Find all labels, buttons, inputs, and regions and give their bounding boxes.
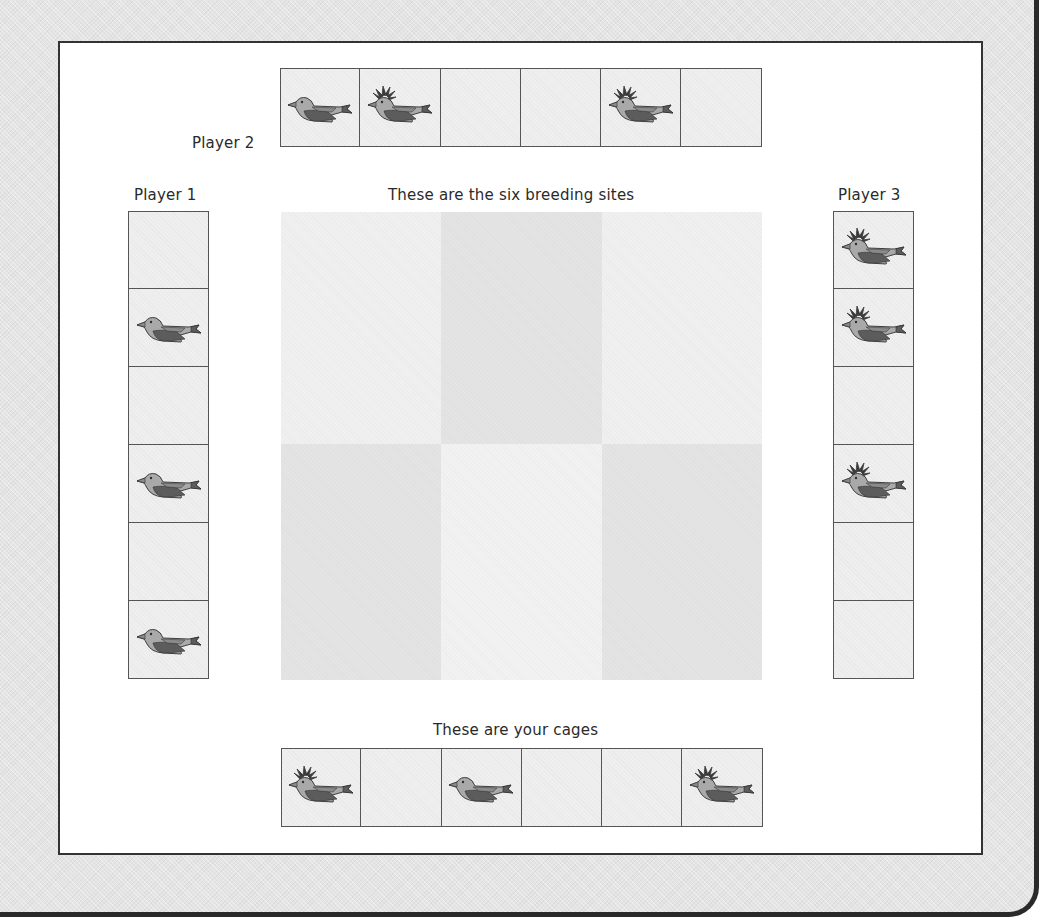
player-2-cage-6[interactable]: [681, 68, 761, 147]
breeding-site-5[interactable]: [441, 444, 601, 680]
player-1-cage-1[interactable]: [128, 211, 209, 289]
player-3-cage-3[interactable]: [833, 367, 914, 445]
breeding-sites-label: These are the six breeding sites: [388, 186, 634, 204]
bird-icon[interactable]: [133, 305, 205, 351]
player-3-label: Player 3: [838, 186, 901, 204]
crested-bird-icon[interactable]: [605, 85, 677, 131]
breeding-site-1[interactable]: [281, 212, 441, 444]
player-3-cage-2[interactable]: [833, 289, 914, 367]
your-cage-1[interactable]: [281, 748, 361, 827]
player-3-cages: [833, 211, 914, 679]
player-2-cage-3[interactable]: [441, 68, 521, 147]
bird-icon[interactable]: [133, 617, 205, 663]
crested-bird-icon[interactable]: [838, 461, 910, 507]
breeding-site-3[interactable]: [602, 212, 762, 444]
your-cage-5[interactable]: [602, 748, 682, 827]
player-1-cage-5[interactable]: [128, 523, 209, 601]
crested-bird-icon[interactable]: [285, 765, 357, 811]
breeding-site-2[interactable]: [441, 212, 601, 444]
player-2-cage-1[interactable]: [280, 68, 360, 147]
player-3-cage-6[interactable]: [833, 601, 914, 679]
player-1-cage-4[interactable]: [128, 445, 209, 523]
your-cage-2[interactable]: [361, 748, 441, 827]
player-1-cage-2[interactable]: [128, 289, 209, 367]
player-1-cages: [128, 211, 209, 679]
player-2-cage-2[interactable]: [360, 68, 440, 147]
player-1-label: Player 1: [134, 186, 197, 204]
your-cage-4[interactable]: [522, 748, 602, 827]
player-3-cage-5[interactable]: [833, 523, 914, 601]
your-cage-6[interactable]: [682, 748, 762, 827]
crested-bird-icon[interactable]: [838, 305, 910, 351]
player-2-cage-5[interactable]: [601, 68, 681, 147]
player-3-cage-4[interactable]: [833, 445, 914, 523]
player-2-cage-4[interactable]: [521, 68, 601, 147]
breeding-site-4[interactable]: [281, 444, 441, 680]
bird-icon[interactable]: [284, 85, 356, 131]
player-2-cages: [280, 68, 762, 147]
breeding-sites-grid: [281, 212, 762, 680]
crested-bird-icon[interactable]: [364, 85, 436, 131]
crested-bird-icon[interactable]: [686, 765, 758, 811]
your-cages-label: These are your cages: [433, 721, 598, 739]
bird-icon[interactable]: [445, 765, 517, 811]
player-1-cage-6[interactable]: [128, 601, 209, 679]
your-cages: [281, 748, 763, 827]
crested-bird-icon[interactable]: [838, 227, 910, 273]
your-cage-3[interactable]: [442, 748, 522, 827]
breeding-site-6[interactable]: [602, 444, 762, 680]
player-2-label: Player 2: [192, 134, 255, 152]
player-3-cage-1[interactable]: [833, 211, 914, 289]
bird-icon[interactable]: [133, 461, 205, 507]
player-1-cage-3[interactable]: [128, 367, 209, 445]
